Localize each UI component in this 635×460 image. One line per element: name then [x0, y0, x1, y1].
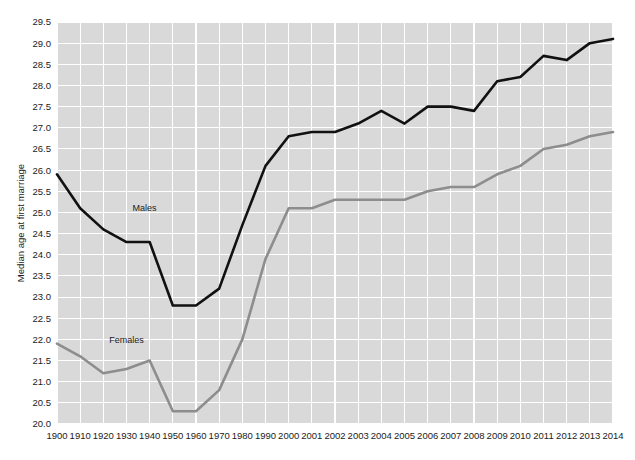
series-annotation-females: Females — [109, 335, 144, 345]
x-axis-tick-label: 2005 — [394, 430, 415, 441]
y-axis-tick-label: 23.0 — [33, 291, 52, 302]
y-axis-tick-label: 27.5 — [33, 101, 52, 112]
x-axis-tick-label: 2014 — [602, 430, 623, 441]
y-axis-tick-label: 26.5 — [33, 143, 52, 154]
x-axis-tick-label: 1990 — [255, 430, 276, 441]
x-axis-tick-label: 2004 — [371, 430, 392, 441]
x-axis-tick-label: 1950 — [162, 430, 183, 441]
x-axis-tick-label: 1920 — [93, 430, 114, 441]
y-axis-tick-label: 22.0 — [33, 334, 52, 345]
y-axis-tick-label: 20.5 — [33, 397, 52, 408]
y-axis-tick-label: 23.5 — [33, 270, 52, 281]
y-axis-tick-label: 21.5 — [33, 355, 52, 366]
x-axis-tick-label: 2011 — [533, 430, 553, 441]
x-axis-tick-label: 2013 — [579, 430, 600, 441]
x-axis-tick-label: 2000 — [278, 430, 299, 441]
y-axis-tick-label: 29.5 — [33, 16, 52, 27]
y-axis-tick-label: 25.5 — [33, 186, 52, 197]
x-axis-tick-label: 1930 — [116, 430, 137, 441]
y-axis-tick-label: 29.0 — [33, 38, 52, 49]
x-axis-tick-label: 2002 — [324, 430, 345, 441]
x-axis-tick-label: 1980 — [232, 430, 253, 441]
y-axis-tick-label: 27.0 — [33, 122, 52, 133]
x-axis-tick-label: 1960 — [185, 430, 206, 441]
y-axis-label: Median age at first marriage — [15, 164, 26, 282]
x-axis-tick-label: 1910 — [70, 430, 91, 441]
x-axis-tick-label: 2010 — [510, 430, 531, 441]
y-axis-tick-label: 28.5 — [33, 59, 52, 70]
x-axis-tick-label: 2012 — [556, 430, 577, 441]
y-axis-tick-label: 20.0 — [33, 418, 52, 429]
x-axis-tick-labels: 1900191019201930194019501960197019801990… — [46, 430, 623, 441]
x-axis-tick-label: 2009 — [487, 430, 508, 441]
x-axis-tick-label: 2001 — [301, 430, 322, 441]
x-axis-tick-label: 2003 — [348, 430, 369, 441]
x-axis-tick-label: 1970 — [209, 430, 230, 441]
x-axis-tick-label: 2006 — [417, 430, 438, 441]
x-axis-tick-label: 1940 — [139, 430, 160, 441]
y-axis-tick-label: 26.0 — [33, 165, 52, 176]
y-axis-tick-label: 21.0 — [33, 376, 52, 387]
line-chart: 20.020.521.021.522.022.523.023.524.024.5… — [0, 0, 635, 460]
y-axis-tick-label: 25.0 — [33, 207, 52, 218]
y-axis-tick-label: 22.5 — [33, 313, 52, 324]
y-axis-tick-label: 24.0 — [33, 249, 52, 260]
y-axis-tick-label: 28.0 — [33, 80, 52, 91]
x-axis-tick-label: 2007 — [440, 430, 461, 441]
x-axis-tick-label: 2008 — [463, 430, 484, 441]
series-annotation-males: Males — [133, 203, 158, 213]
y-axis-tick-label: 24.5 — [33, 228, 52, 239]
x-axis-tick-label: 1900 — [46, 430, 67, 441]
chart-figure: 20.020.521.021.522.022.523.023.524.024.5… — [0, 0, 635, 460]
